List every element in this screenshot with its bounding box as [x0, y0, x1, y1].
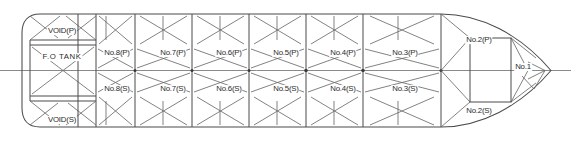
void-s-bracing	[30, 101, 96, 125]
plan-svg-canvas	[0, 0, 571, 142]
void-p-bracing	[30, 16, 96, 40]
ship-tank-arrangement-drawing: VOID(P) F.O TANK VOID(S) No.8(P) No.7(P)…	[0, 0, 571, 142]
